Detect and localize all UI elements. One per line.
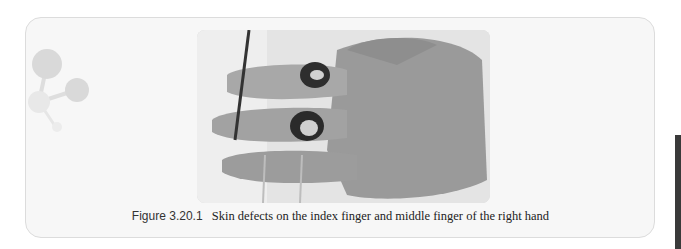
figure-caption: Figure 3.20.1 Skin defects on the index … [0, 209, 681, 224]
figure-photo [197, 30, 490, 203]
molecule-icon [25, 40, 95, 135]
hand-photo-illustration [197, 30, 490, 203]
page-edge-tab [675, 135, 681, 249]
figure-label: Figure 3.20.1 [132, 209, 203, 223]
figure-caption-text: Skin defects on the index finger and mid… [212, 209, 549, 223]
